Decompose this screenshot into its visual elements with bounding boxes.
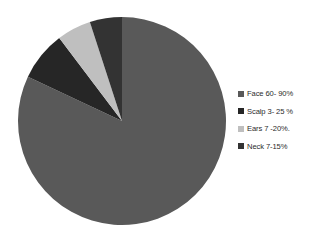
legend-item-ears[interactable]: Ears 7 -20%. (238, 120, 315, 138)
legend-swatch-ears-icon (238, 126, 244, 132)
legend-label-face: Face 60- 90% (247, 89, 293, 98)
legend-swatch-scalp-icon (238, 108, 244, 114)
pie-chart-figure: Face 60- 90% Scalp 3- 25 % Ears 7 -20%. … (0, 0, 315, 239)
legend-swatch-face-icon (238, 91, 244, 97)
pie-svg (18, 13, 227, 229)
legend-label-ears: Ears 7 -20%. (247, 124, 290, 133)
pie-plot-area (18, 13, 227, 229)
legend-item-scalp[interactable]: Scalp 3- 25 % (238, 103, 315, 121)
chart-legend: Face 60- 90% Scalp 3- 25 % Ears 7 -20%. … (238, 85, 315, 155)
legend-item-neck[interactable]: Neck 7-15% (238, 138, 315, 156)
legend-label-neck: Neck 7-15% (247, 142, 287, 151)
legend-item-face[interactable]: Face 60- 90% (238, 85, 315, 103)
legend-label-scalp: Scalp 3- 25 % (247, 107, 293, 116)
pie-slices-group (18, 17, 226, 225)
legend-swatch-neck-icon (238, 143, 244, 149)
